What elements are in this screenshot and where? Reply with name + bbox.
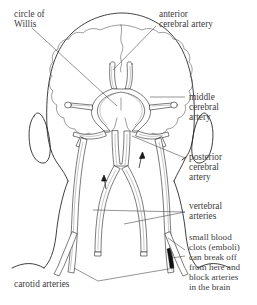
- label-middle-cerebral-artery-line2: cerebral: [189, 102, 219, 112]
- label-posterior-cerebral-artery-line2: cerebral: [189, 162, 219, 172]
- right-middle-cerebral-bulb: [171, 102, 178, 108]
- label-vertebral-arteries-line1: vertebral: [189, 201, 222, 211]
- label-posterior-cerebral-artery-line3: artery: [189, 172, 211, 182]
- label-emboli-note-line3: can break off: [189, 252, 238, 262]
- label-vertebral-arteries-line2: arteries: [189, 211, 217, 221]
- label-carotid-arteries: carotid arteries: [14, 279, 70, 289]
- label-emboli-note-line4: from here and: [189, 262, 240, 272]
- cerebral-artery-diagram: circle of Willis anterior cerebral arter…: [0, 0, 257, 305]
- diagram-canvas: circle of Willis anterior cerebral arter…: [0, 0, 257, 305]
- label-emboli-note-line2: clots (emboli): [189, 242, 240, 252]
- label-emboli-note-line6: in the brain: [189, 282, 231, 292]
- label-anterior-cerebral-artery-line2: cerebral artery: [159, 19, 213, 29]
- left-middle-cerebral-bulb: [65, 102, 72, 108]
- label-anterior-cerebral-artery-line1: anterior: [159, 9, 189, 19]
- label-middle-cerebral-artery-line3: artery: [189, 112, 211, 122]
- label-middle-cerebral-artery-line1: middle: [189, 92, 215, 102]
- label-circle-of-willis-line2: Willis: [14, 19, 37, 29]
- label-circle-of-willis-line1: circle of: [14, 9, 46, 19]
- label-posterior-cerebral-artery-line1: posterior: [189, 152, 223, 162]
- label-emboli-note-line1: small blood: [189, 232, 232, 242]
- label-emboli-note-line5: block arteries: [189, 272, 239, 282]
